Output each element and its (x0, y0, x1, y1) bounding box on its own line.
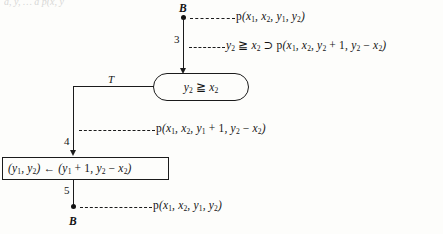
edge-4-line (73, 86, 74, 152)
assertion-edge-4: p(x1, x2, y1 + 1, y2 − x2) (156, 123, 266, 136)
assertion-leader-edge-3 (189, 47, 225, 48)
true-branch-horizontal-line (73, 86, 154, 87)
assertion-leader-b-top (190, 18, 235, 19)
edge-number-5: 5 (64, 185, 70, 196)
edge-number-4: 4 (64, 136, 70, 147)
decision-test-label: y2 ≧ x2 (184, 80, 219, 95)
figure-canvas: a, y, … a p(x, y B p(x1, x2, y1, y2) 3 y… (0, 0, 443, 234)
assignment-box: (y1, y2) ← (y1 + 1, y2 − x2) (2, 157, 169, 180)
assertion-b-bottom: p(x1, x2, y1, y2) (153, 200, 222, 213)
edge-3-line (183, 18, 184, 71)
assertion-edge-3: y2 ≧ x2 ⊃ p(x1, x2, y2 + 1, y2 − x2) (226, 40, 386, 53)
node-b-bottom-dot (71, 204, 76, 209)
node-label-b-bottom: B (69, 216, 77, 228)
assignment-label: (y1, y2) ← (y1 + 1, y2 − x2) (8, 162, 131, 176)
cropped-top-text: a, y, … a p(x, y (4, 0, 64, 7)
true-branch-label: T (108, 74, 114, 85)
assertion-leader-edge-4 (79, 130, 155, 131)
assertion-leader-b-bottom (80, 207, 152, 208)
edge-4-arrowhead (70, 150, 76, 156)
decision-test-oval: y2 ≧ x2 (153, 73, 249, 101)
assertion-b-top: p(x1, x2, y1, y2) (236, 11, 305, 24)
edge-number-3: 3 (174, 34, 180, 45)
node-label-b-top: B (179, 3, 187, 15)
